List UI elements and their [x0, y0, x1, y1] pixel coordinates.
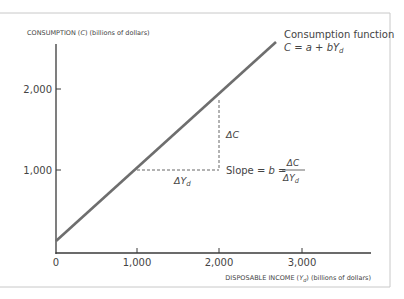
- y-tick-label-2000: 2,000: [23, 84, 52, 95]
- x-axis-title: DISPOSABLE INCOME (Yd) (billions of doll…: [225, 274, 371, 283]
- consumption-function-label: Consumption function: [284, 29, 394, 40]
- x-tick-label-2000: 2,000: [205, 257, 234, 268]
- chart: CONSUMPTION (C) (billions of dollars) 2,…: [0, 0, 404, 299]
- slope-fraction-numerator: ΔC: [286, 158, 300, 168]
- y-tick-label-1000: 1,000: [23, 165, 52, 176]
- consumption-function-equation: C = a + bYd: [284, 42, 344, 55]
- slope-fraction-denominator: ΔYd: [282, 173, 300, 185]
- x-tick-label-0: 0: [53, 257, 59, 268]
- x-tick-label-3000: 3,000: [288, 257, 317, 268]
- y-axis-title: CONSUMPTION (C) (billions of dollars): [27, 29, 150, 37]
- slope-label: Slope = b =: [226, 165, 286, 176]
- delta-c-label: ΔC: [225, 129, 239, 140]
- delta-yd-label: ΔYd: [173, 175, 191, 188]
- consumption-function-line: [56, 42, 276, 241]
- x-tick-label-1000: 1,000: [123, 257, 152, 268]
